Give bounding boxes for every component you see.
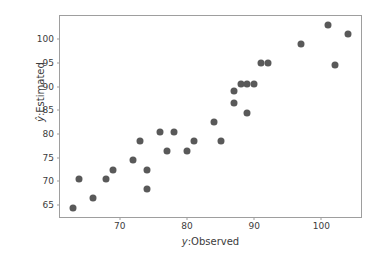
y-tick-label: 100 [37, 35, 54, 44]
data-point [251, 81, 258, 88]
data-point [231, 88, 238, 95]
data-point [210, 119, 217, 126]
x-tick-mark [119, 217, 120, 220]
data-point [345, 31, 352, 38]
x-tick-label: 100 [313, 222, 330, 231]
data-point [190, 138, 197, 145]
data-point [89, 195, 96, 202]
x-axis-label: y:Observed [182, 237, 239, 247]
y-tick-mark [57, 39, 60, 40]
x-axis-label-text: :Observed [188, 236, 239, 247]
data-point [130, 157, 137, 164]
y-tick-label: 75 [43, 153, 54, 162]
y-tick-mark [57, 181, 60, 182]
data-point [110, 166, 117, 173]
plot-area: y:Observed ŷ:Estimated 70809010065707580… [59, 15, 362, 218]
data-point [331, 62, 338, 69]
data-point [264, 59, 271, 66]
x-tick-mark [186, 217, 187, 220]
data-point [157, 128, 164, 135]
data-point [103, 176, 110, 183]
data-point [217, 138, 224, 145]
data-point [76, 176, 83, 183]
y-tick-label: 65 [43, 201, 54, 210]
data-point [136, 138, 143, 145]
data-point [298, 40, 305, 47]
y-axis-label-variable: ŷ [35, 116, 46, 122]
y-tick-label: 90 [43, 82, 54, 91]
x-tick-label: 80 [181, 222, 192, 231]
y-tick-label: 95 [43, 58, 54, 67]
y-tick-mark [57, 205, 60, 206]
y-tick-mark [57, 110, 60, 111]
data-point [143, 166, 150, 173]
data-point [163, 147, 170, 154]
data-point [143, 185, 150, 192]
y-tick-mark [57, 134, 60, 135]
data-point [325, 22, 332, 29]
data-point [231, 100, 238, 107]
x-tick-label: 70 [114, 222, 125, 231]
data-point [69, 204, 76, 211]
data-point [183, 147, 190, 154]
data-point [244, 109, 251, 116]
x-tick-mark [321, 217, 322, 220]
x-tick-label: 90 [248, 222, 259, 231]
y-tick-mark [57, 86, 60, 87]
y-tick-mark [57, 62, 60, 63]
data-point [170, 128, 177, 135]
y-tick-label: 85 [43, 106, 54, 115]
scatter-plot-figure: y:Observed ŷ:Estimated 70809010065707580… [0, 0, 382, 266]
y-tick-label: 70 [43, 177, 54, 186]
x-tick-mark [254, 217, 255, 220]
y-tick-label: 80 [43, 130, 54, 139]
y-tick-mark [57, 157, 60, 158]
